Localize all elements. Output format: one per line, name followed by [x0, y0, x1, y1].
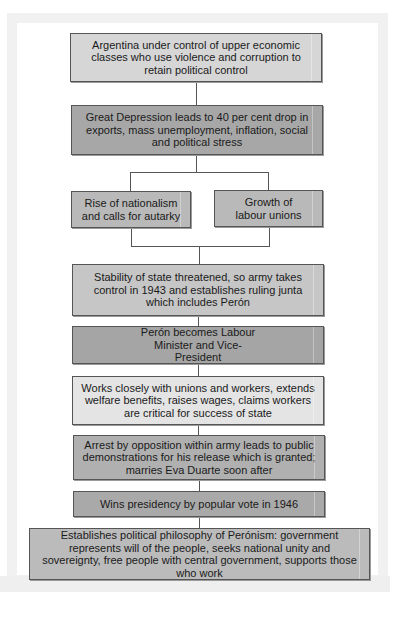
node-text: Establishes political philosophy of Peró… — [40, 529, 359, 579]
node-wins-presidency: Wins presidency by popular vote in 1946 — [73, 491, 325, 517]
node-text: Stability of state threatened, so army t… — [79, 271, 317, 309]
node-text: Great Depression leads to 40 per cent dr… — [78, 111, 316, 149]
node-peron-labour-minister: Perón becomes Labour Minister and Vice-P… — [72, 326, 324, 364]
connector-n6-n7 — [198, 425, 199, 435]
connector-n7-n8 — [199, 480, 200, 491]
connector-n5-n6 — [198, 364, 199, 376]
connector-merge-right-up — [269, 227, 270, 247]
connector-n1-n2 — [196, 82, 197, 105]
node-upper-class-control: Argentina under control of upper economi… — [70, 33, 322, 82]
node-peronism-philosophy: Establishes political philosophy of Peró… — [29, 528, 370, 580]
node-text: Works closely with unions and workers, e… — [79, 382, 317, 420]
connector-merge-left-up — [131, 228, 132, 247]
connector-n8-n9 — [199, 517, 200, 528]
node-text: Argentina under control of upper economi… — [77, 39, 315, 77]
connector-merge-bottom — [131, 246, 270, 247]
connector-n2-branch — [196, 155, 197, 172]
connector-branch-top — [130, 172, 269, 173]
connector-branch-right-down — [268, 172, 269, 190]
node-works-with-unions: Works closely with unions and workers, e… — [72, 376, 324, 425]
node-text: Arrest by opposition within army leads t… — [80, 439, 318, 477]
connector-merge-n4 — [199, 246, 200, 264]
node-growth-of-labour-unions: Growth of labour unions — [214, 190, 323, 227]
node-text: Wins presidency by popular vote in 1946 — [100, 498, 298, 511]
node-text: Rise of nationalism and calls for autark… — [75, 197, 187, 222]
node-text: Perón becomes Labour Minister and Vice-P… — [133, 326, 263, 364]
connector-branch-left-down — [130, 172, 131, 191]
node-great-depression: Great Depression leads to 40 per cent dr… — [71, 105, 323, 155]
node-rise-of-nationalism: Rise of nationalism and calls for autark… — [71, 191, 191, 228]
node-army-takes-control: Stability of state threatened, so army t… — [72, 264, 324, 316]
node-text: Growth of labour unions — [229, 196, 308, 221]
node-arrest-and-release: Arrest by opposition within army leads t… — [73, 435, 325, 480]
connector-n4-n5 — [198, 316, 199, 326]
